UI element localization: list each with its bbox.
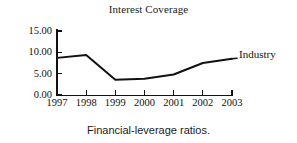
series-line-industry: [57, 55, 232, 80]
figure-caption: Financial-leverage ratios.: [0, 124, 297, 136]
series-plot: [0, 0, 297, 143]
series-label-industry: Industry: [239, 48, 276, 60]
chart-figure: Interest Coverage 0.005.0010.0015.00 199…: [0, 0, 297, 143]
series-leader-line: [232, 58, 237, 59]
